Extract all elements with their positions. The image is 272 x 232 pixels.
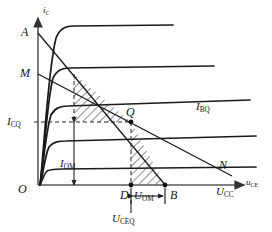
point-n-label: N	[219, 159, 227, 171]
origin-label: O	[18, 183, 27, 195]
point-d-label: D	[120, 189, 129, 201]
point-m-label: M	[20, 67, 30, 79]
point-b-label: B	[170, 189, 177, 201]
uom-label: UOM	[134, 190, 154, 201]
iom-label: IOM	[60, 158, 75, 169]
point-d-dot	[129, 183, 134, 188]
point-q-label: Q	[126, 106, 135, 118]
icq-label: ICQ	[7, 116, 21, 127]
point-b-dot	[163, 183, 168, 188]
uceq-label: UCEQ	[112, 213, 134, 224]
ac-load-line	[38, 33, 166, 186]
x-axis-label: uCE	[246, 178, 258, 187]
ibq-label: IBQ	[196, 101, 210, 112]
point-a-label: A	[21, 26, 28, 38]
y-axis-label: iC	[43, 6, 49, 15]
figure-container: iC uCE O A M Q N D B ICQ IBQ IOM UOM UCE…	[0, 0, 272, 232]
ucc-label: UCC	[216, 186, 234, 197]
point-q-dot	[129, 120, 134, 125]
